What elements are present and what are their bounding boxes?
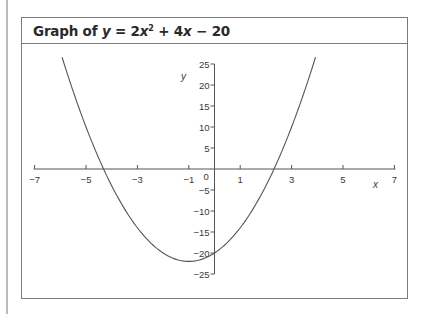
- function-plot: −7−5−3−101357 252015105−5−10−15−20−25 x …: [0, 0, 430, 314]
- y-tick-label: 20: [199, 80, 210, 91]
- y-tick-label: 25: [199, 59, 210, 70]
- y-tick-label: −10: [193, 206, 209, 217]
- x-tick-label: 7: [392, 174, 397, 185]
- y-tick-label: −25: [193, 269, 209, 280]
- y-axis-label: y: [180, 71, 187, 82]
- x-tick-label: 1: [238, 174, 243, 185]
- x-tick-label: −7: [29, 174, 40, 185]
- axes: [34, 64, 396, 274]
- x-tick-label: −3: [132, 174, 143, 185]
- x-tick-label: −5: [81, 174, 92, 185]
- parabola-curve: [62, 57, 315, 261]
- y-tick-label: 5: [204, 143, 209, 154]
- y-tick-label: −15: [193, 227, 209, 238]
- y-tick-label: 10: [199, 122, 210, 133]
- x-axis-label: x: [372, 179, 379, 190]
- y-tick-label: −5: [199, 185, 210, 196]
- x-tick-label: 3: [289, 174, 294, 185]
- x-axis-ticks: −7−5−3−101357: [29, 165, 397, 185]
- x-tick-label: 0: [204, 171, 209, 182]
- x-tick-label: 5: [340, 174, 345, 185]
- x-tick-label: −1: [183, 174, 194, 185]
- y-tick-label: 15: [199, 101, 210, 112]
